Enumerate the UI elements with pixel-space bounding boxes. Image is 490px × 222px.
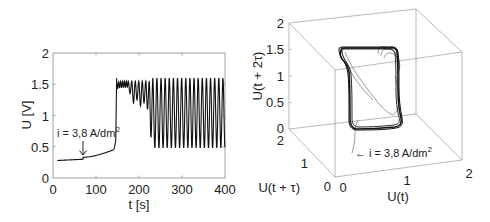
figure: 0 0.5 1 1.5 2 0 100 200 300 400 t [s] U … bbox=[0, 0, 490, 222]
x-axis-label: t [s] bbox=[129, 197, 150, 212]
y-tick-1: 1 bbox=[42, 109, 49, 124]
x-axis-label: U(t) bbox=[387, 189, 409, 204]
y-tick-1: 1 bbox=[301, 156, 308, 171]
transient-trajectory bbox=[338, 47, 400, 153]
z-tick-2: 2 bbox=[277, 16, 284, 31]
y-tick-2: 2 bbox=[42, 46, 49, 61]
x-tick-2: 2 bbox=[465, 166, 472, 181]
y-tick-0: 0 bbox=[42, 171, 49, 186]
x-tick-300: 300 bbox=[171, 182, 193, 197]
x-tick-1: 1 bbox=[403, 173, 410, 188]
x-tick-400: 400 bbox=[214, 182, 236, 197]
current-density-annotation: i = 3,8 A/dm2 bbox=[57, 125, 120, 139]
z-tick-0.5: 0.5 bbox=[266, 95, 284, 110]
y-axis-label: U(t + τ) bbox=[258, 180, 300, 195]
x-tick-0: 0 bbox=[339, 180, 346, 195]
y-tick-0: 0 bbox=[324, 179, 331, 194]
y-axis-label: U [V] bbox=[19, 101, 34, 130]
z-tick-marks bbox=[289, 50, 292, 103]
z-tick-1: 1 bbox=[277, 69, 284, 84]
x-tick-200: 200 bbox=[128, 182, 150, 197]
z-axis-label: U(t + 2τ) bbox=[250, 52, 265, 101]
voltage-curve bbox=[57, 78, 225, 161]
current-density-annotation: ← i = 3,8 A/dm2 bbox=[355, 145, 432, 159]
y-tick-0.5: 0.5 bbox=[31, 140, 49, 155]
x-tick-0: 0 bbox=[49, 182, 56, 197]
left-plot-voltage-time: 0 0.5 1 1.5 2 0 100 200 300 400 t [s] U … bbox=[19, 46, 236, 212]
z-tick-1.5: 1.5 bbox=[266, 42, 284, 57]
x-tick-100: 100 bbox=[85, 182, 107, 197]
y-tick-2: 2 bbox=[277, 133, 284, 148]
right-plot-phase-space: 2 1.5 1 0.5 0 2 1 0 0 1 2 U(t) U(t + τ) … bbox=[250, 9, 473, 204]
y-tick-1.5: 1.5 bbox=[31, 77, 49, 92]
arrow-down-icon bbox=[80, 141, 87, 155]
